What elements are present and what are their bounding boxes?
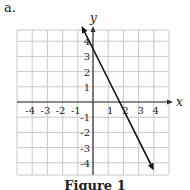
- y-axis-arrow-icon: [91, 26, 96, 32]
- x-axis-label: x: [176, 95, 183, 109]
- y-tick-label: 1: [84, 82, 90, 93]
- y-tick-label: 3: [84, 51, 90, 62]
- y-tick-label: -3: [80, 143, 90, 154]
- x-tick-label: 3: [137, 105, 143, 116]
- y-axis-label: y: [89, 11, 97, 25]
- x-tick-label: 1: [107, 105, 113, 116]
- y-tick-label: 2: [84, 67, 90, 78]
- figure-caption: Figure 1: [0, 178, 190, 190]
- y-tick-label: -1: [80, 112, 90, 123]
- coordinate-plane: xy-4-3-2-112344321-1-2-3-4: [0, 0, 190, 190]
- y-tick-label: -4: [80, 158, 90, 169]
- x-tick-label: -1: [71, 105, 81, 116]
- x-tick-label: -3: [41, 105, 51, 116]
- x-tick-label: 4: [153, 105, 159, 116]
- y-tick-label: -2: [80, 127, 90, 138]
- x-tick-label: -4: [25, 105, 35, 116]
- x-axis-arrow-icon: [167, 100, 173, 105]
- x-tick-label: -2: [56, 105, 66, 116]
- plotted-line: [84, 30, 152, 166]
